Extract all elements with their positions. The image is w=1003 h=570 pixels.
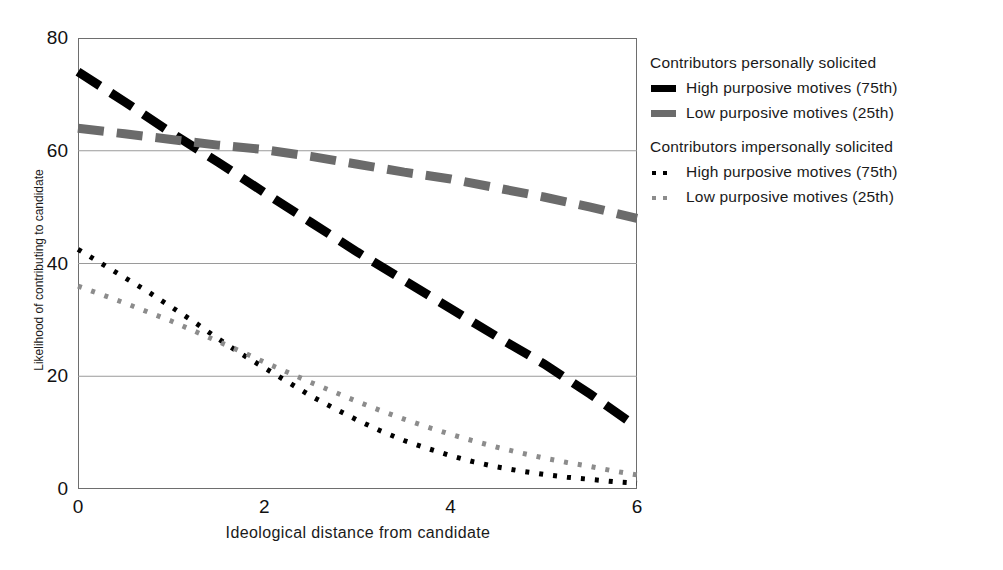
- y-tick-label: 20: [6, 366, 68, 385]
- legend-item[interactable]: Low purposive motives (25th): [650, 104, 995, 122]
- x-axis-title: Ideological distance from candidate: [78, 524, 638, 542]
- legend-dots-icon: [650, 164, 680, 180]
- series-line-3: [78, 286, 637, 475]
- chart-title: [150, 0, 480, 3]
- legend-bar-icon: [650, 80, 680, 96]
- legend-item-label: High purposive motives (75th): [686, 79, 898, 97]
- legend-item[interactable]: High purposive motives (75th): [650, 79, 995, 97]
- x-tick-label: 2: [234, 497, 294, 516]
- y-tick-label: 0: [6, 479, 68, 498]
- legend-item-label: Low purposive motives (25th): [686, 188, 894, 206]
- x-tick-label: 4: [421, 497, 481, 516]
- legend-group-header: Contributors impersonally solicited: [650, 138, 995, 156]
- legend-bar-icon: [650, 105, 680, 121]
- legend-dots-icon: [650, 189, 680, 205]
- series-line-0: [78, 72, 637, 427]
- x-tick-label: 0: [48, 497, 108, 516]
- series-line-1: [78, 128, 637, 218]
- legend-item-label: High purposive motives (75th): [686, 163, 898, 181]
- legend-item[interactable]: High purposive motives (75th): [650, 163, 995, 181]
- plot-canvas: [78, 38, 637, 489]
- y-tick-label: 60: [6, 141, 68, 160]
- y-tick-label: 40: [6, 254, 68, 273]
- legend-item-label: Low purposive motives (25th): [686, 104, 894, 122]
- chart-legend: Contributors personally solicitedHigh pu…: [650, 54, 995, 213]
- legend-item[interactable]: Low purposive motives (25th): [650, 188, 995, 206]
- x-tick-label: 6: [607, 497, 667, 516]
- chart-figure: Likelihood of contributing to candidate …: [0, 0, 1003, 570]
- y-tick-label: 80: [6, 28, 68, 47]
- legend-spacer: [650, 129, 995, 138]
- legend-group-header: Contributors personally solicited: [650, 54, 995, 72]
